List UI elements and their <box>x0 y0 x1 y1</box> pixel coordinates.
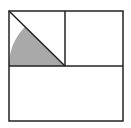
shaded-sector <box>9 26 65 66</box>
geometry-diagram <box>0 0 131 128</box>
